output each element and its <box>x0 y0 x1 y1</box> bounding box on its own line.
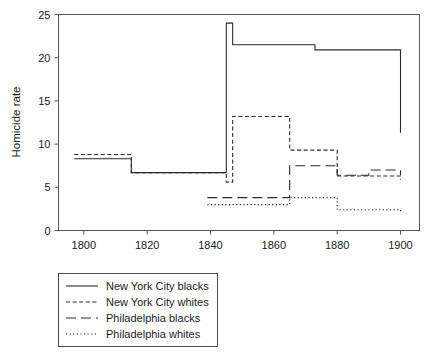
legend-label: Philadelphia blacks <box>106 313 200 324</box>
y-tick-label: 5 <box>44 181 50 193</box>
solid-line-key <box>65 281 99 291</box>
chart-plot-area: 0510152025 180018201840186018801900 Homi… <box>0 0 445 262</box>
dotted-line-key <box>65 329 99 339</box>
legend-item-new-york-city-whites: New York City whites <box>65 294 209 310</box>
y-tick-label: 15 <box>38 95 50 107</box>
legend-item-philadelphia-blacks: Philadelphia blacks <box>65 310 209 326</box>
series-line-3 <box>207 198 400 214</box>
y-tick-label: 20 <box>38 52 50 64</box>
x-tick-label: 1880 <box>325 239 349 251</box>
x-tick-label: 1860 <box>262 239 286 251</box>
x-tick-label: 1840 <box>198 239 222 251</box>
series-line-1 <box>74 116 400 182</box>
dashed-line-key <box>65 297 99 307</box>
y-axis: 0510152025 <box>38 9 58 237</box>
legend-item-philadelphia-whites: Philadelphia whites <box>65 326 209 342</box>
series-line-2 <box>207 166 400 198</box>
legend-label: Philadelphia whites <box>106 329 200 340</box>
series-layer <box>74 23 400 213</box>
y-tick-label: 25 <box>38 9 50 21</box>
legend-label: New York City whites <box>106 297 209 308</box>
y-axis-title: Homicide rate <box>10 87 22 158</box>
longdash-line-key <box>65 313 99 323</box>
legend-label: New York City blacks <box>106 281 209 292</box>
chart-page: 0510152025 180018201840186018801900 Homi… <box>0 0 445 359</box>
x-axis: 180018201840186018801900 <box>72 231 413 251</box>
x-tick-label: 1820 <box>135 239 159 251</box>
x-tick-label: 1800 <box>72 239 96 251</box>
x-tick-label: 1900 <box>388 239 412 251</box>
y-tick-label: 10 <box>38 138 50 150</box>
y-tick-label: 0 <box>44 225 50 237</box>
series-line-0 <box>74 23 400 172</box>
chart-legend: New York City blacks New York City white… <box>58 273 218 347</box>
legend-item-new-york-city-blacks: New York City blacks <box>65 278 209 294</box>
homicide-rate-line-chart: 0510152025 180018201840186018801900 Homi… <box>0 0 445 262</box>
